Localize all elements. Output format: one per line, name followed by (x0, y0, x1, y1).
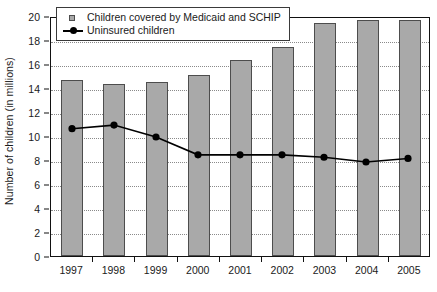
x-tick-mark (177, 257, 178, 262)
x-tick-label: 1998 (102, 264, 125, 276)
legend-item-medicaid: Children covered by Medicaid and SCHIP (62, 11, 281, 24)
y-tick-label: 14 (28, 83, 40, 95)
legend-label-uninsured: Uninsured children (87, 24, 175, 37)
x-tick-mark (261, 257, 262, 262)
y-tick-mark (44, 65, 49, 66)
x-tick-mark (219, 257, 220, 262)
y-axis-tick-labels: 02468101214161820 (18, 0, 44, 262)
x-tick-label: 2005 (397, 264, 420, 276)
line-marker (404, 155, 411, 162)
line-series (51, 18, 429, 256)
line-marker (236, 151, 243, 158)
line-marker (278, 151, 285, 158)
y-tick-label: 12 (28, 107, 40, 119)
x-axis-tick-marks (50, 257, 430, 263)
x-tick-mark (303, 257, 304, 262)
plot-area (50, 17, 430, 257)
x-tick-label: 2002 (271, 264, 294, 276)
y-axis-label-container: Number of children (in millions) (0, 0, 18, 262)
legend-item-uninsured: Uninsured children (62, 24, 281, 37)
line-marker (362, 158, 369, 165)
y-tick-label: 16 (28, 59, 40, 71)
line-marker (152, 133, 159, 140)
y-tick-mark (44, 137, 49, 138)
line-marker (68, 125, 75, 132)
y-tick-label: 0 (34, 251, 40, 263)
y-tick-mark (44, 41, 49, 42)
x-tick-mark (388, 257, 389, 262)
x-tick-label: 1999 (144, 264, 167, 276)
line-marker (320, 154, 327, 161)
y-tick-mark (44, 257, 49, 258)
legend-line-dot-icon (62, 25, 84, 37)
y-tick-mark (44, 113, 49, 114)
legend-label-medicaid: Children covered by Medicaid and SCHIP (87, 11, 281, 24)
x-tick-label: 2001 (228, 264, 251, 276)
y-tick-label: 20 (28, 11, 40, 23)
y-tick-mark (44, 89, 49, 90)
y-tick-mark (44, 185, 49, 186)
x-tick-mark (134, 257, 135, 262)
y-tick-label: 6 (34, 179, 40, 191)
y-axis-label: Number of children (in millions) (3, 57, 15, 205)
x-tick-label: 1997 (59, 264, 82, 276)
y-tick-mark (44, 17, 49, 18)
chart-figure: Number of children (in millions) 0246810… (0, 0, 437, 292)
x-tick-label: 2003 (313, 264, 336, 276)
x-tick-mark (346, 257, 347, 262)
x-axis-tick-labels: 199719981999200020012002200320042005 (50, 264, 430, 280)
legend-square-icon (62, 12, 84, 24)
y-tick-label: 18 (28, 35, 40, 47)
y-tick-label: 2 (34, 227, 40, 239)
line-marker (194, 151, 201, 158)
y-tick-mark (44, 161, 49, 162)
y-tick-mark (44, 233, 49, 234)
line-marker (110, 122, 117, 129)
chart-legend: Children covered by Medicaid and SCHIP U… (56, 7, 290, 41)
y-tick-label: 4 (34, 203, 40, 215)
x-tick-label: 2000 (186, 264, 209, 276)
y-tick-label: 8 (34, 155, 40, 167)
y-tick-label: 10 (28, 131, 40, 143)
y-tick-mark (44, 209, 49, 210)
x-tick-label: 2004 (355, 264, 378, 276)
x-tick-mark (92, 257, 93, 262)
